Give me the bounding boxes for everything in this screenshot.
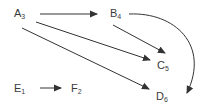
node-d-label: D: [156, 90, 164, 102]
node-b-subscript: 4: [117, 13, 121, 20]
node-f: F2: [71, 83, 82, 95]
node-a-subscript: 3: [21, 13, 25, 20]
node-f-label: F: [71, 82, 78, 94]
node-c: C5: [157, 60, 169, 72]
edges-layer: [0, 0, 210, 106]
node-c-subscript: 5: [165, 65, 169, 72]
node-a: A3: [14, 8, 25, 20]
diagram-canvas: A3 B4 C5 D6 E1 F2: [0, 0, 210, 106]
node-d-subscript: 6: [164, 96, 168, 103]
edge-b-to-c: [113, 25, 165, 53]
node-b: B4: [110, 8, 121, 20]
edge-a-to-d: [22, 28, 149, 89]
node-e-subscript: 1: [21, 88, 25, 95]
node-f-subscript: 2: [78, 88, 82, 95]
node-d: D6: [156, 91, 168, 103]
node-c-label: C: [157, 59, 165, 71]
edge-a-to-c: [36, 22, 150, 60]
edge-b-to-d: [129, 14, 194, 93]
node-e: E1: [14, 83, 25, 95]
